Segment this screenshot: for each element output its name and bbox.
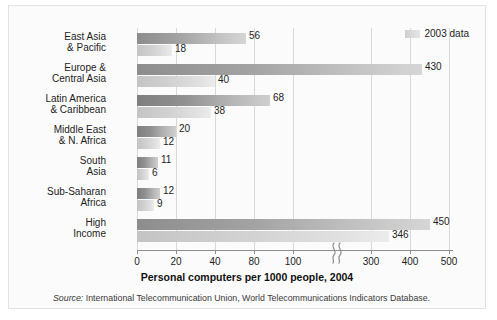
bar-middle-east-2003 (137, 138, 160, 149)
x-tick-500 (449, 250, 450, 254)
bar-value-south-asia-2003: 6 (152, 167, 158, 178)
bar-value-europe-2004: 430 (425, 61, 442, 72)
x-tick-label-80: 80 (234, 256, 274, 267)
x-tick-300 (371, 250, 372, 254)
bar-east-asia-2003 (137, 45, 172, 56)
category-label-line1: Latin America (0, 93, 106, 104)
gridline-400 (410, 28, 411, 250)
x-axis-line (137, 250, 453, 251)
category-label-middle-east: Middle East & N. Africa (0, 124, 106, 146)
bar-value-high-income-2003: 346 (392, 229, 409, 240)
bar-value-east-asia-2003: 18 (175, 43, 186, 54)
bar-value-latin-america-2004: 68 (273, 92, 284, 103)
bar-value-sub-saharan-2003: 9 (157, 198, 163, 209)
x-tick-label-400: 400 (390, 256, 430, 267)
x-tick-100 (293, 250, 294, 254)
category-label-line2: & Caribbean (0, 104, 106, 115)
bar-east-asia-2004 (137, 33, 246, 44)
bar-value-middle-east-2004: 20 (179, 123, 190, 134)
legend-label-2003: 2003 data (425, 28, 470, 39)
x-tick-400 (410, 250, 411, 254)
category-label-line1: Middle East (0, 124, 106, 135)
x-tick-40 (215, 250, 216, 254)
bar-high-income-2004 (137, 219, 430, 230)
x-tick-label-500: 500 (429, 256, 469, 267)
x-tick-20 (176, 250, 177, 254)
category-label-south-asia: South Asia (0, 155, 106, 177)
category-label-line1: South (0, 155, 106, 166)
category-label-line2: Central Asia (0, 73, 106, 84)
bar-latin-america-2003 (137, 107, 211, 118)
source-text: International Telecommunication Union, W… (83, 293, 430, 303)
bar-value-europe-2003: 40 (218, 74, 229, 85)
source-prefix: Source: (53, 293, 83, 303)
category-label-line1: Sub-Saharan (0, 186, 106, 197)
category-label-line1: East Asia (0, 31, 106, 42)
source-note: Source: International Telecommunication … (53, 293, 430, 303)
x-tick-label-40: 40 (195, 256, 235, 267)
category-label-europe: Europe & Central Asia (0, 62, 106, 84)
category-label-latin-america: Latin America & Caribbean (0, 93, 106, 115)
x-tick-label-0: 0 (117, 256, 157, 267)
gridline-300 (371, 28, 372, 250)
category-label-high-income: High Income (0, 217, 106, 239)
bar-value-south-asia-2004: 11 (161, 154, 171, 165)
gridline-40 (215, 28, 216, 250)
bar-south-asia-2003 (137, 169, 149, 180)
bar-sub-saharan-2003 (137, 200, 154, 211)
legend-swatch-2003 (405, 30, 420, 38)
bar-high-income-2003 (137, 231, 389, 242)
x-tick-label-100: 100 (273, 256, 313, 267)
chart-legend: 2003 data (405, 28, 470, 39)
bar-latin-america-2004 (137, 95, 270, 106)
bar-value-high-income-2004: 450 (433, 216, 450, 227)
plot-area: 56 18 430 40 68 38 20 12 11 6 12 9 450 3… (137, 28, 453, 250)
bar-value-middle-east-2003: 12 (163, 136, 174, 147)
x-tick-label-300: 300 (351, 256, 391, 267)
axis-break-icon (325, 242, 349, 268)
bar-europe-2004 (137, 64, 422, 75)
category-label-line2: & N. Africa (0, 135, 106, 146)
bar-value-sub-saharan-2004: 12 (163, 185, 174, 196)
x-tick-0 (137, 250, 138, 254)
category-label-line2: Asia (0, 166, 106, 177)
bar-value-latin-america-2003: 38 (214, 105, 225, 116)
category-label-east-asia: East Asia & Pacific (0, 31, 106, 53)
chart-figure: 56 18 430 40 68 38 20 12 11 6 12 9 450 3… (8, 5, 486, 309)
x-axis-title: Personal computers per 1000 people, 2004 (9, 271, 485, 283)
gridline-100 (293, 28, 294, 250)
category-label-line2: Africa (0, 197, 106, 208)
category-label-sub-saharan: Sub-Saharan Africa (0, 186, 106, 208)
category-label-line1: High (0, 217, 106, 228)
category-label-line2: Income (0, 228, 106, 239)
x-tick-80 (254, 250, 255, 254)
bar-value-east-asia-2004: 56 (249, 30, 260, 41)
category-label-line2: & Pacific (0, 42, 106, 53)
x-tick-label-20: 20 (156, 256, 196, 267)
gridline-80 (254, 28, 255, 250)
category-label-line1: Europe & (0, 62, 106, 73)
gridline-20 (176, 28, 177, 250)
bar-europe-2003 (137, 76, 215, 87)
